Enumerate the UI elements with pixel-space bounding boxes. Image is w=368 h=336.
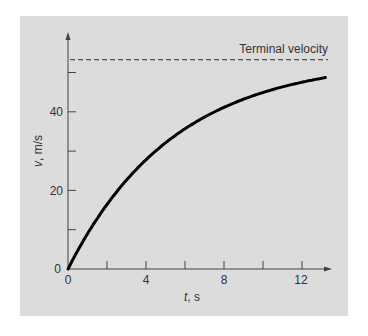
y-axis-arrow-icon (66, 32, 71, 40)
x-axis-arrow-icon (324, 267, 332, 272)
y-axis-label: v, m/s (31, 135, 45, 167)
x-axis-label: t, s (184, 290, 200, 304)
y-tick-label: 40 (50, 105, 64, 119)
x-tick-label: 8 (221, 273, 228, 287)
velocity-chart: 0 20 40 0 4 8 12 t, s v, m/s Terminal ve… (0, 0, 368, 336)
x-ticks (107, 261, 302, 269)
x-tick-label: 12 (294, 273, 308, 287)
terminal-velocity-label: Terminal velocity (239, 42, 328, 56)
x-tick-label: 0 (65, 273, 72, 287)
y-tick-label: 20 (50, 184, 64, 198)
x-tick-label: 4 (143, 273, 150, 287)
y-tick-label: 0 (54, 262, 61, 276)
velocity-curve (68, 78, 325, 269)
y-ticks (68, 73, 76, 230)
